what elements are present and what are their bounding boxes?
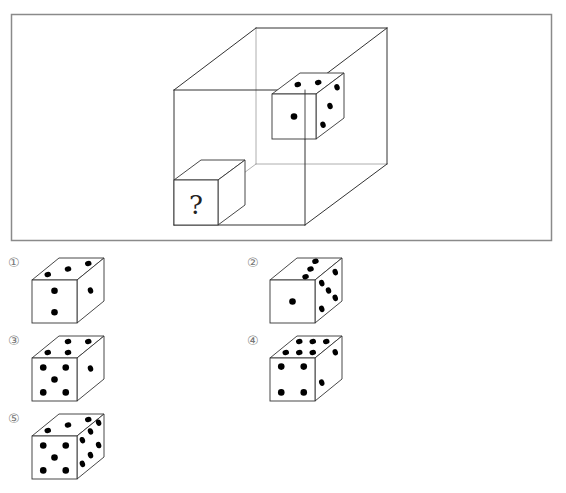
option-5-label: ⑤ [8,411,20,426]
pip-front [289,298,296,305]
pip-front [62,364,69,371]
pip-front [40,442,47,449]
cube-edge [174,28,256,90]
pip-front [278,363,285,370]
pip-front [40,467,47,474]
pip-front [62,442,69,449]
unknown-face-question-mark: ? [189,190,203,220]
pip-front [300,389,307,396]
option-3[interactable]: ③ [8,333,104,401]
pip-front [40,364,47,371]
unknown-die-body [174,160,245,225]
option-5[interactable]: ⑤ [8,411,104,479]
unknown-die: ? [174,160,245,225]
pip-front [300,363,307,370]
option-3-label: ③ [8,333,20,348]
cube-edge [305,164,387,225]
pip-front [51,309,58,316]
pip-front [62,389,69,396]
option-2[interactable]: ② [247,255,342,323]
pip-front [51,287,58,294]
pip-front [40,389,47,396]
pip-front [278,389,285,396]
option-1-label: ① [8,255,20,270]
pip-front [291,113,298,120]
option-4-label: ④ [247,333,259,348]
question-panel: ? [12,15,552,241]
puzzle-figure: ? ① ② ③ ④ ⑤ [0,0,566,493]
known-die [272,73,344,139]
answer-options: ① ② ③ ④ ⑤ [8,255,342,479]
pip-front [51,376,58,383]
option-1[interactable]: ① [8,255,104,323]
option-4[interactable]: ④ [247,333,342,401]
pip-front [51,454,58,461]
pip-front [62,467,69,474]
die-front-face [32,280,77,323]
option-2-label: ② [247,255,259,270]
die-front-face [270,358,315,401]
